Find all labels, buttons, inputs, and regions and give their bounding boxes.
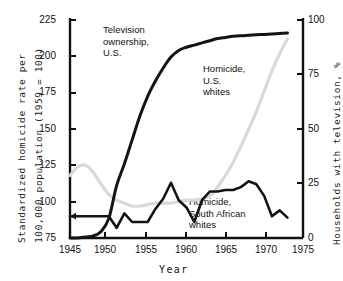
series-layer	[70, 33, 287, 238]
plot-area	[0, 0, 343, 281]
series-line-homicide-us-whites	[70, 39, 287, 206]
chart-figure: Standardized homicide rate per 100,000 p…	[0, 0, 343, 281]
series-line-television-ownership	[70, 33, 287, 238]
